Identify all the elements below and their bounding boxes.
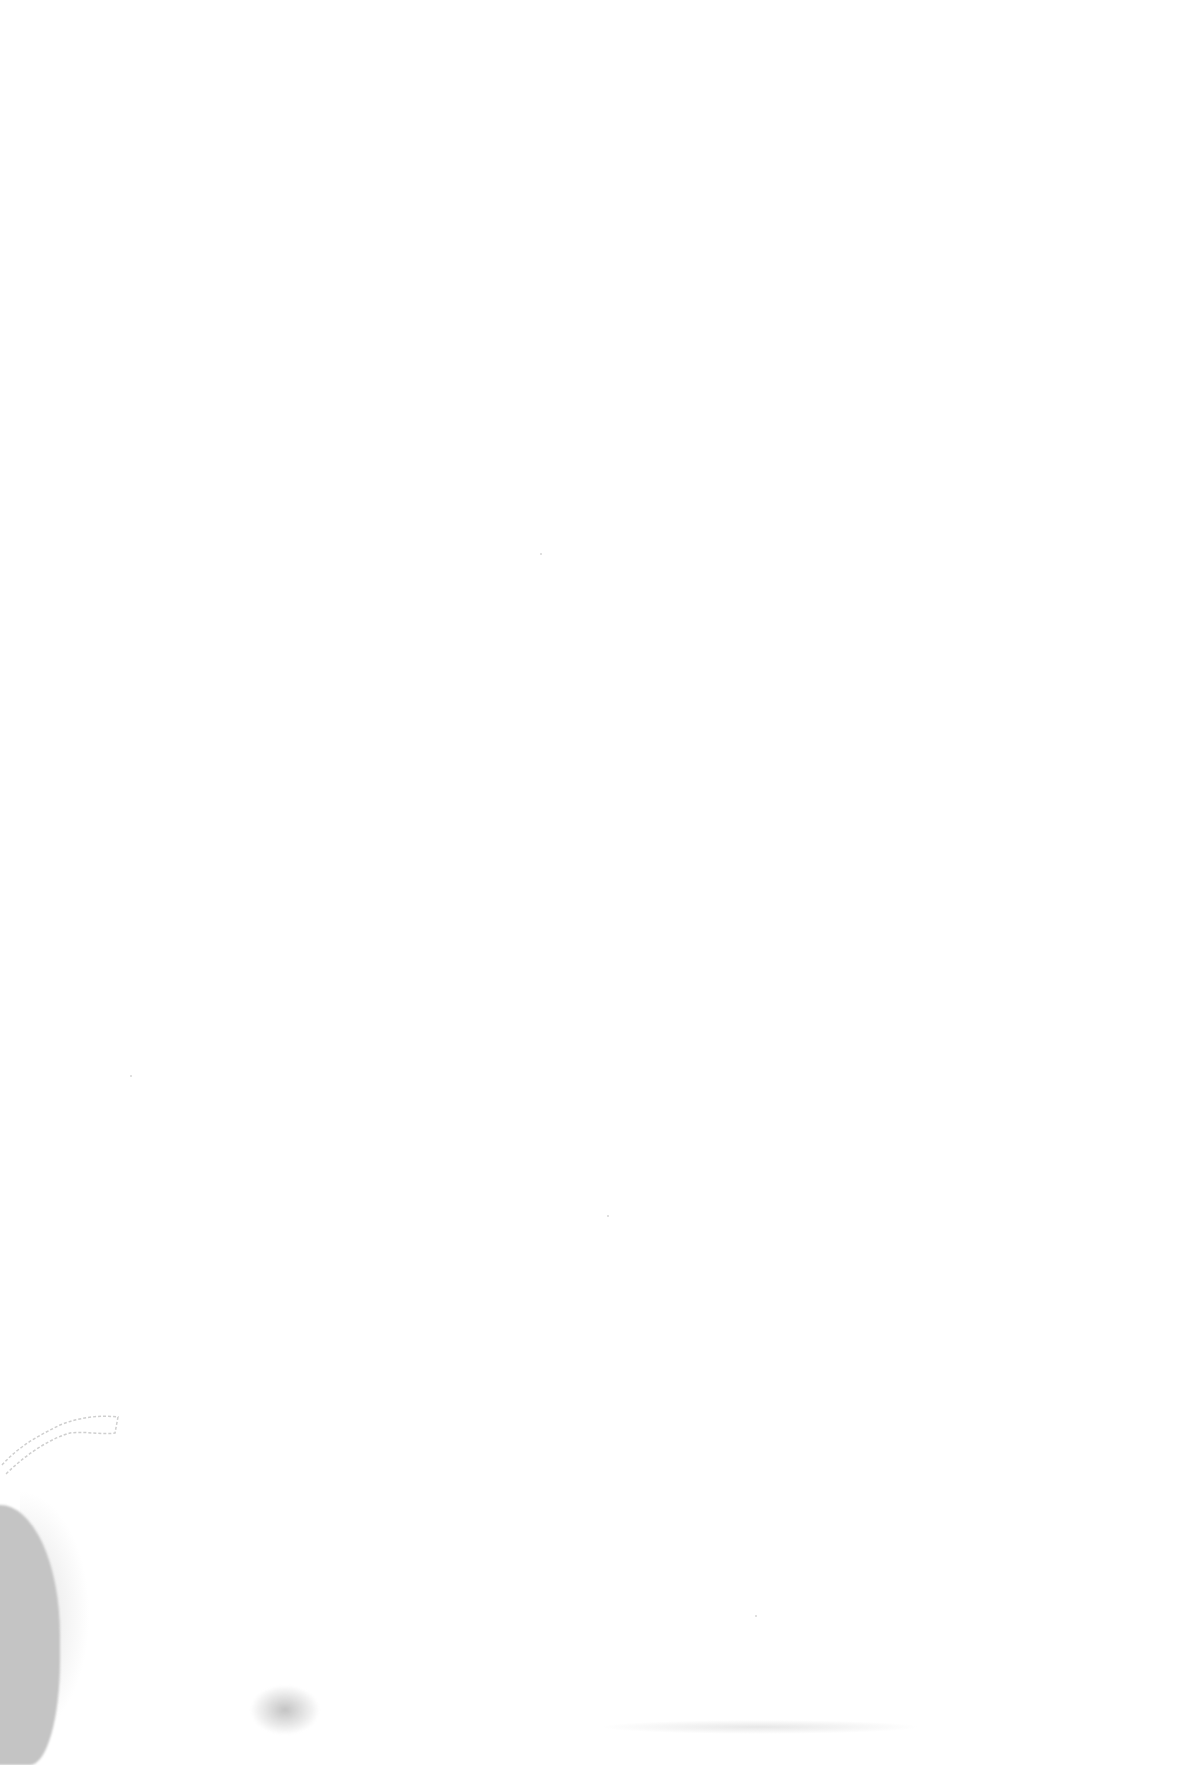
scan-shadow-fade	[20, 1490, 90, 1740]
dust-speck	[540, 553, 542, 555]
scan-smudge-bottom-right	[600, 1720, 920, 1734]
dust-speck	[755, 1615, 757, 1617]
scan-curl-artifact	[0, 1395, 125, 1475]
dust-speck	[130, 1075, 132, 1077]
dust-speck	[607, 1215, 609, 1217]
scan-shadow-left	[0, 1505, 60, 1765]
scan-smudge-bottom	[250, 1685, 320, 1735]
